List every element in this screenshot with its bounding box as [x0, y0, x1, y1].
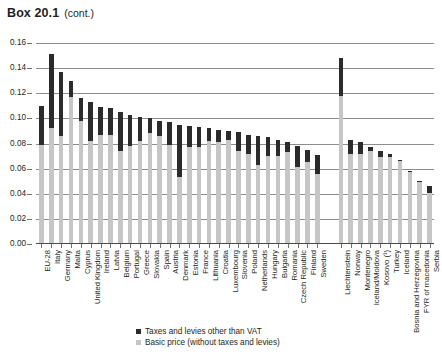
bar-segment-taxes — [368, 147, 373, 151]
x-axis-tick-label: Iceland/Moldova — [373, 250, 381, 305]
x-axis-tick-label: Luxembourg — [232, 250, 240, 292]
bar-column — [226, 131, 231, 244]
bar-segment-taxes — [197, 127, 202, 147]
x-axis-tick-label: Malta — [74, 250, 82, 269]
bar-segment-basic-price — [408, 172, 413, 244]
y-axis-tick-mark — [27, 93, 32, 94]
bar-segment-basic-price — [295, 167, 300, 244]
x-axis-tick-label: United Kingdom — [94, 250, 102, 304]
legend-item: Taxes and levies other than VAT — [136, 326, 280, 337]
x-axis-tick-mark — [170, 244, 171, 248]
bar-segment-basic-price — [236, 151, 241, 244]
bar-column — [118, 112, 123, 244]
x-axis-tick-label: Serbia — [433, 250, 441, 272]
x-axis-tick-mark — [390, 244, 391, 248]
bar-segment-taxes — [285, 142, 290, 152]
bar-segment-taxes — [348, 140, 353, 154]
bar-segment-taxes — [388, 154, 393, 158]
bar-column — [157, 121, 162, 244]
bar-column — [408, 171, 413, 244]
bar-segment-basic-price — [266, 156, 271, 244]
x-axis-tick-label: Greece — [143, 250, 151, 275]
y-axis-tick-label: 0.00 — [10, 240, 26, 248]
y-axis-tick-mark — [27, 43, 32, 44]
x-axis-tick-label: Italy — [54, 250, 62, 264]
bar-segment-taxes — [98, 107, 103, 135]
bar-segment-basic-price — [216, 142, 221, 244]
x-axis-tick-label: Liechtenstein — [344, 250, 352, 295]
x-axis-tick-mark — [317, 244, 318, 248]
y-axis-tick-label: 0.04 — [10, 190, 26, 198]
x-axis-tick-mark — [101, 244, 102, 248]
y-axis-labels: 0.160.140.120.100.080.060.040.020.00 — [0, 43, 32, 244]
x-axis-tick-mark — [179, 244, 180, 248]
bar-column — [39, 106, 44, 244]
bar-segment-taxes — [358, 142, 363, 153]
x-axis-tick-mark — [248, 244, 249, 248]
x-axis-tick-label: Denmark — [182, 250, 190, 281]
x-axis-tick-label: Netherlands — [261, 250, 269, 291]
x-axis-tick-label: France — [202, 250, 210, 274]
x-axis-tick-label: Czech Republic — [300, 250, 308, 303]
bar-segment-basic-price — [118, 151, 123, 244]
bar-segment-basic-price — [108, 135, 113, 244]
light-swatch-icon — [136, 340, 141, 345]
chart-legend: Taxes and levies other than VATBasic pri… — [136, 326, 280, 348]
x-axis-tick-label: Montenegro — [364, 250, 372, 291]
bar-segment-basic-price — [276, 156, 281, 244]
bar-segment-taxes — [408, 171, 413, 172]
bar-segment-taxes — [226, 131, 231, 140]
x-axis-tick-label: Belgium — [123, 250, 131, 277]
x-axis-tick-mark — [51, 244, 52, 248]
bar-segment-taxes — [157, 121, 162, 136]
bar-segment-basic-price — [207, 141, 212, 244]
bar-segment-basic-price — [49, 128, 54, 244]
bar-column — [49, 54, 54, 244]
x-axis-tick-mark — [199, 244, 200, 248]
x-axis-tick-label: Ireland — [103, 250, 111, 273]
bar-segment-taxes — [339, 58, 344, 96]
x-axis-tick-label: Cyprus — [84, 250, 92, 274]
bar-segment-taxes — [305, 150, 310, 163]
x-axis-tick-label: Bosnia and Herzegovina — [413, 250, 421, 333]
x-axis-tick-label: Norway — [354, 250, 362, 276]
x-axis-tick-mark — [410, 244, 411, 248]
x-axis-tick-label: Croatia — [222, 250, 230, 274]
bar-column — [256, 136, 261, 244]
bar-segment-taxes — [187, 126, 192, 147]
y-axis-tick-mark — [27, 194, 32, 195]
bar-segment-basic-price — [167, 145, 172, 244]
bar-segment-basic-price — [348, 154, 353, 244]
x-axis-tick-label: Austria — [172, 250, 180, 274]
x-axis-tick-label: Poland — [251, 250, 259, 274]
y-axis-tick-label: 0.16 — [10, 39, 26, 47]
bar-segment-taxes — [118, 112, 123, 151]
y-axis-tick-mark — [27, 244, 32, 245]
x-axis-tick-label: Latvia — [113, 250, 121, 270]
x-axis-tick-mark — [209, 244, 210, 248]
x-axis-tick-mark — [140, 244, 141, 248]
bar-segment-taxes — [276, 140, 281, 156]
bar-column — [266, 137, 271, 244]
x-axis-tick-label: Turkey — [393, 250, 401, 273]
x-axis-tick-label: Spain — [163, 250, 171, 269]
bar-segment-taxes — [378, 151, 383, 157]
bar-column — [177, 125, 182, 244]
bar-column — [315, 155, 320, 244]
x-axis-tick-mark — [160, 244, 161, 248]
bar-column — [108, 108, 113, 244]
y-axis-tick-label: 0.06 — [10, 165, 26, 173]
bar-column — [98, 107, 103, 244]
bar-column — [128, 115, 133, 244]
x-axis-tick-label: Slovenia — [241, 250, 249, 279]
y-axis-tick-mark — [27, 219, 32, 220]
bar-segment-basic-price — [177, 177, 182, 244]
bar-column — [207, 128, 212, 244]
bar-segment-basic-price — [398, 161, 403, 244]
x-axis-tick-mark — [420, 244, 421, 248]
x-axis-tick-mark — [238, 244, 239, 248]
bar-segment-basic-price — [69, 97, 74, 244]
bar-segment-taxes — [256, 136, 261, 165]
x-axis-tick-mark — [110, 244, 111, 248]
bar-column — [295, 146, 300, 244]
